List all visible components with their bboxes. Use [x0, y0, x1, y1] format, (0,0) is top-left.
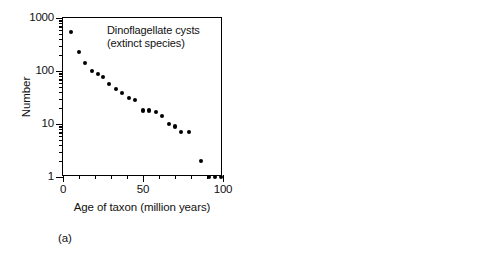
- data-point-extinct-species: [133, 98, 137, 102]
- x-tick-minor-a: [175, 175, 176, 179]
- y-tick-minor-a: [59, 20, 63, 21]
- panel-b: 11010010000102030xxxxxxxxxxxxxxxxxxxxxxx…: [245, 0, 490, 257]
- x-tick-major-a: [143, 175, 144, 182]
- data-point-extinct-species: [101, 75, 105, 79]
- y-tick-minor-a: [59, 152, 63, 153]
- y-tick-minor-a: [59, 76, 63, 77]
- y-tick-minor-a: [59, 79, 63, 80]
- x-tick-major-a: [63, 175, 64, 182]
- data-point-extinct-species: [96, 72, 100, 76]
- y-tick-minor-a: [59, 132, 63, 133]
- y-tick-minor-a: [59, 136, 63, 137]
- y-tick-minor-a: [59, 99, 63, 100]
- y-tick-minor-a: [59, 83, 63, 84]
- x-tick-minor-a: [95, 175, 96, 179]
- data-point-extinct-species: [90, 69, 94, 73]
- panel-a: 1101001000050100 Dinoflagellate cysts (e…: [0, 0, 245, 257]
- x-tick-minor-a: [79, 175, 80, 179]
- data-point-extinct-species: [187, 130, 191, 134]
- y-tick-minor-a: [59, 34, 63, 35]
- data-point-extinct-species: [213, 175, 217, 179]
- x-tick-minor-a: [159, 175, 160, 179]
- data-point-extinct-species: [107, 82, 111, 86]
- y-tick-major-a: [56, 18, 63, 19]
- x-tick-major-a: [223, 175, 224, 182]
- plot-title-a-line1: Dinoflagellate cysts: [107, 24, 200, 36]
- y-axis-title-a: Number: [20, 76, 32, 116]
- data-point-extinct-species: [154, 110, 158, 114]
- y-tick-label-1-a: 1: [48, 171, 54, 183]
- plot-area-a: 1101001000050100 Dinoflagellate cysts (e…: [62, 17, 222, 176]
- data-point-extinct-species: [173, 124, 177, 128]
- y-tick-label-100-a: 100: [35, 65, 54, 77]
- x-tick-label-100-a: 100: [214, 184, 233, 196]
- x-tick-label-50-a: 50: [137, 184, 149, 196]
- x-axis-title-a: Age of taxon (million years): [74, 201, 211, 213]
- y-tick-major-a: [56, 71, 63, 72]
- y-tick-label-10-a: 10: [42, 118, 54, 130]
- plot-title-a-line2: (extinct species): [107, 37, 185, 49]
- data-point-extinct-species: [207, 175, 211, 179]
- data-point-extinct-species: [83, 61, 87, 65]
- data-point-extinct-species: [160, 114, 164, 118]
- y-tick-major-a: [56, 124, 63, 125]
- y-tick-minor-a: [59, 129, 63, 130]
- y-tick-minor-a: [59, 30, 63, 31]
- data-point-extinct-species: [127, 96, 131, 100]
- y-tick-minor-a: [59, 23, 63, 24]
- y-tick-minor-a: [59, 108, 63, 109]
- y-tick-minor-a: [59, 140, 63, 141]
- data-point-extinct-species: [114, 87, 118, 91]
- panel-caption-a: (a): [58, 232, 72, 244]
- data-point-extinct-species: [120, 91, 124, 95]
- plot-title-a: Dinoflagellate cysts (extinct species): [107, 24, 200, 50]
- data-point-extinct-species: [167, 122, 171, 126]
- x-tick-minor-a: [127, 175, 128, 179]
- data-point-extinct-species: [141, 108, 145, 112]
- y-tick-minor-a: [59, 145, 63, 146]
- y-tick-label-1000-a: 1000: [29, 12, 54, 24]
- data-point-extinct-species: [179, 130, 183, 134]
- figure-root: 1101001000050100 Dinoflagellate cysts (e…: [0, 0, 491, 257]
- y-tick-minor-a: [59, 161, 63, 162]
- y-tick-major-a: [56, 177, 63, 178]
- y-tick-minor-a: [59, 126, 63, 127]
- y-tick-minor-a: [59, 55, 63, 56]
- data-point-extinct-species: [199, 159, 203, 163]
- y-tick-minor-a: [59, 39, 63, 40]
- y-tick-minor-a: [59, 46, 63, 47]
- y-tick-minor-a: [59, 92, 63, 93]
- data-point-extinct-species: [69, 30, 73, 34]
- y-tick-minor-a: [59, 73, 63, 74]
- data-point-extinct-species: [147, 108, 151, 112]
- y-tick-minor-a: [59, 26, 63, 27]
- y-tick-minor-a: [59, 87, 63, 88]
- x-tick-minor-a: [111, 175, 112, 179]
- data-point-extinct-species: [77, 50, 81, 54]
- x-tick-minor-a: [191, 175, 192, 179]
- x-tick-label-0-a: 0: [60, 184, 66, 196]
